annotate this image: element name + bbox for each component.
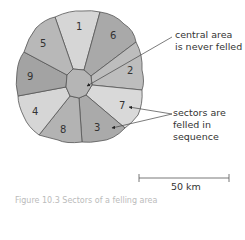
sector-label-8: 8 xyxy=(60,124,66,135)
sector-label-2: 2 xyxy=(127,65,133,76)
central-annotation-line1: central area xyxy=(175,29,242,41)
sector-label-1: 1 xyxy=(76,21,82,32)
central-area-annotation: central area is never felled xyxy=(175,29,242,53)
sector-label-5: 5 xyxy=(40,38,46,49)
sector-label-4: 4 xyxy=(32,106,38,117)
sectors-annotation-line2: felled in xyxy=(173,119,226,131)
sector-label-7: 7 xyxy=(119,100,125,111)
scale-bar-label: 50 km xyxy=(171,181,201,193)
sector-label-3: 3 xyxy=(94,122,100,133)
figure-caption: Figure 10.3 Sectors of a felling area xyxy=(15,196,157,205)
sectors-annotation: sectors are felled in sequence xyxy=(173,107,226,143)
sector-label-9: 9 xyxy=(27,71,33,82)
sectors-annotation-line3: sequence xyxy=(173,131,226,143)
sectors-annotation-line1: sectors are xyxy=(173,107,226,119)
central-annotation-line2: is never felled xyxy=(175,41,242,53)
sector-label-6: 6 xyxy=(110,30,116,41)
